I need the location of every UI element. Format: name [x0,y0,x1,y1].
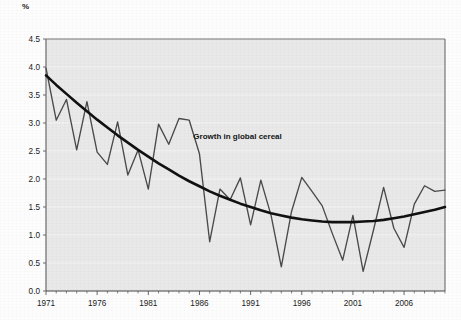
x-tick-label: 1981 [139,299,158,308]
cereal-growth-line-chart: 0.00.51.01.52.02.53.03.54.04.51971197619… [0,0,461,320]
chart-page: % 0.00.51.01.52.02.53.03.54.04.519711976… [0,0,461,320]
y-tick-label: 1.5 [29,203,41,212]
y-tick-label: 3.0 [29,119,41,128]
x-tick-label: 1976 [88,299,107,308]
x-tick-label: 1991 [242,299,261,308]
x-tick-label: 2001 [344,299,363,308]
y-tick-label: 2.0 [29,175,41,184]
series-annotation-label: Growth in global cereal [193,132,281,141]
x-tick-label: 1996 [293,299,312,308]
x-tick-label: 1986 [190,299,209,308]
y-tick-label: 0.0 [29,287,41,296]
y-tick-label: 4.5 [29,35,41,44]
y-tick-label: 2.5 [29,147,41,156]
plot-background [46,39,445,291]
x-tick-label: 2006 [395,299,414,308]
y-tick-label: 1.0 [29,231,41,240]
x-axis: 19711976198119861991199620012006 [37,291,414,308]
y-tick-label: 0.5 [29,259,41,268]
y-tick-label: 3.5 [29,91,41,100]
x-tick-label: 1971 [37,299,56,308]
y-axis: 0.00.51.01.52.02.53.03.54.04.5 [29,35,46,296]
y-tick-label: 4.0 [29,63,41,72]
